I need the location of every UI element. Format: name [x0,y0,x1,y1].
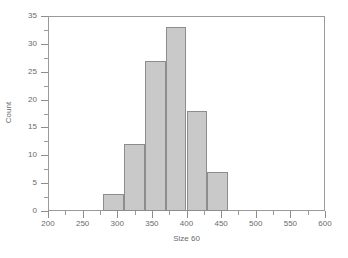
histogram-bar [166,27,187,211]
y-axis-minor-tick [44,114,48,115]
x-axis-tick [152,211,153,218]
x-axis-minor-tick [238,211,239,215]
histogram-bar [187,111,208,211]
x-axis-title: Size 60 [48,234,325,243]
x-axis-minor-tick [204,211,205,215]
x-axis-tick [83,211,84,218]
y-axis-title: Count [4,83,13,143]
x-axis-minor-tick [273,211,274,215]
x-axis-tick [290,211,291,218]
x-axis-tick [117,211,118,218]
y-axis-tick [41,211,48,212]
x-axis-tick [221,211,222,218]
y-axis-minor-tick [44,30,48,31]
x-axis-minor-tick [308,211,309,215]
y-axis-tick-label: 35 [11,12,37,20]
y-axis-tick [41,44,48,45]
x-axis-minor-tick [135,211,136,215]
y-axis-tick-label: 5 [11,179,37,187]
x-axis-minor-tick [169,211,170,215]
y-axis-tick [41,100,48,101]
y-axis-tick [41,155,48,156]
y-axis-tick [41,72,48,73]
y-axis-tick [41,127,48,128]
x-axis-tick [256,211,257,218]
y-axis-minor-tick [44,58,48,59]
y-axis-tick-label: 10 [11,151,37,159]
x-axis-minor-tick [100,211,101,215]
y-axis-minor-tick [44,169,48,170]
y-axis-tick [41,183,48,184]
y-axis-minor-tick [44,141,48,142]
histogram-bar [103,194,124,211]
y-axis-tick-label: 25 [11,68,37,76]
y-axis-tick-label: 15 [11,123,37,131]
y-axis-tick-label: 30 [11,40,37,48]
y-axis-minor-tick [44,197,48,198]
histogram-figure: 05101520253035 2002503003504004505005506… [0,0,348,258]
histogram-bar [124,144,145,211]
y-axis-tick-label: 20 [11,96,37,104]
x-axis-tick [325,211,326,218]
y-axis-tick-label: 0 [11,207,37,215]
histogram-bar [145,61,166,211]
histogram-bar [207,172,228,211]
y-axis-minor-tick [44,86,48,87]
y-axis-tick [41,16,48,17]
x-axis-tick-label: 600 [305,220,345,228]
plot-area [48,16,325,211]
x-axis-tick [187,211,188,218]
x-axis-minor-tick [65,211,66,215]
x-axis-tick [48,211,49,218]
